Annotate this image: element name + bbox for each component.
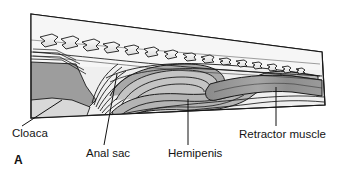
section-contents — [31, 14, 325, 126]
label-anal-sac: Anal sac — [86, 147, 130, 159]
panel-letter: A — [14, 153, 23, 167]
anatomical-figure: Cloaca Anal sac Hemipenis Retractor musc… — [0, 0, 347, 179]
label-retractor-muscle: Retractor muscle — [239, 128, 326, 140]
label-hemipenis: Hemipenis — [168, 147, 222, 159]
label-cloaca: Cloaca — [12, 127, 48, 139]
